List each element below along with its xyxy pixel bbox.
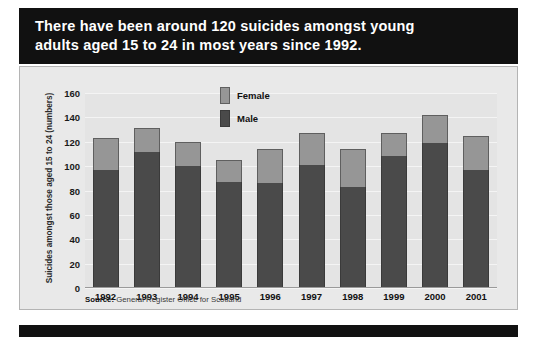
bar-segment-male[interactable] bbox=[463, 170, 489, 288]
y-axis-label: Suicides amongst those aged 15 to 24 (nu… bbox=[45, 93, 55, 284]
bar-segment-male[interactable] bbox=[93, 170, 119, 288]
x-axis-tick-label: 1997 bbox=[299, 291, 325, 305]
bar-segment-male[interactable] bbox=[134, 152, 160, 289]
bar-column[interactable] bbox=[381, 93, 407, 288]
bar-segment-female[interactable] bbox=[340, 149, 366, 187]
title-line-1: There have been around 120 suicides amon… bbox=[35, 17, 502, 36]
y-axis-tick-label: 80 bbox=[69, 185, 80, 196]
bar-segment-female[interactable] bbox=[381, 133, 407, 156]
y-axis-label-wrap: Suicides amongst those aged 15 to 24 (nu… bbox=[40, 93, 60, 283]
bar-column[interactable] bbox=[422, 93, 448, 288]
chart-page: There have been around 120 suicides amon… bbox=[0, 0, 537, 339]
bar-segment-male[interactable] bbox=[422, 143, 448, 288]
bar-column[interactable] bbox=[134, 93, 160, 288]
x-axis-tick-label: 2001 bbox=[463, 291, 489, 305]
x-axis-tick-label: 1996 bbox=[257, 291, 283, 305]
bar-segment-male[interactable] bbox=[299, 165, 325, 288]
bar-column[interactable] bbox=[93, 93, 119, 288]
legend-swatch-male-icon bbox=[220, 110, 230, 127]
legend-item-male: Male bbox=[220, 110, 270, 127]
y-axis-tick-label: 0 bbox=[75, 283, 80, 294]
bar-column[interactable] bbox=[299, 93, 325, 288]
x-axis-tick-label: 2000 bbox=[422, 291, 448, 305]
legend-label-female: Female bbox=[237, 90, 270, 101]
bar-segment-male[interactable] bbox=[175, 166, 201, 288]
bar-segment-female[interactable] bbox=[299, 133, 325, 165]
bar-group bbox=[85, 93, 497, 288]
bar-segment-male[interactable] bbox=[340, 187, 366, 288]
y-axis-tick-label: 20 bbox=[69, 258, 80, 269]
y-axis-tick-label: 60 bbox=[69, 209, 80, 220]
y-axis-tick-label: 160 bbox=[64, 88, 80, 99]
bar-segment-female[interactable] bbox=[422, 115, 448, 143]
bar-segment-female[interactable] bbox=[93, 138, 119, 170]
bar-segment-female[interactable] bbox=[257, 149, 283, 183]
bar-column[interactable] bbox=[340, 93, 366, 288]
bar-segment-female[interactable] bbox=[216, 160, 242, 182]
bar-segment-female[interactable] bbox=[175, 142, 201, 166]
bar-column[interactable] bbox=[175, 93, 201, 288]
bottom-decoration-bar bbox=[19, 325, 518, 337]
y-axis-tick-label: 100 bbox=[64, 161, 80, 172]
x-axis-tick-label: 1999 bbox=[381, 291, 407, 305]
chart-frame: Suicides amongst those aged 15 to 24 (nu… bbox=[19, 66, 518, 310]
x-axis-line bbox=[85, 287, 497, 288]
bar-column[interactable] bbox=[463, 93, 489, 288]
bar-segment-female[interactable] bbox=[134, 128, 160, 151]
legend-swatch-female-icon bbox=[220, 87, 230, 104]
legend: Female Male bbox=[220, 87, 270, 133]
gridline: 0 bbox=[85, 288, 497, 289]
source-prefix: Source: bbox=[85, 295, 114, 304]
x-axis-tick-label: 1998 bbox=[340, 291, 366, 305]
source-text: General Register Office for Scotland bbox=[116, 295, 241, 304]
source-note: Source: General Register Office for Scot… bbox=[85, 295, 241, 304]
legend-label-male: Male bbox=[237, 113, 258, 124]
y-axis-tick-label: 120 bbox=[64, 136, 80, 147]
bar-segment-female[interactable] bbox=[463, 136, 489, 170]
plot-area: 020406080100120140160 bbox=[85, 93, 497, 288]
title-banner: There have been around 120 suicides amon… bbox=[19, 8, 518, 64]
bar-segment-male[interactable] bbox=[216, 182, 242, 288]
title-line-2: adults aged 15 to 24 in most years since… bbox=[35, 36, 502, 55]
bar-segment-male[interactable] bbox=[381, 156, 407, 288]
legend-item-female: Female bbox=[220, 87, 270, 104]
y-axis-tick-label: 40 bbox=[69, 234, 80, 245]
bar-segment-male[interactable] bbox=[257, 183, 283, 288]
y-axis-tick-label: 140 bbox=[64, 112, 80, 123]
